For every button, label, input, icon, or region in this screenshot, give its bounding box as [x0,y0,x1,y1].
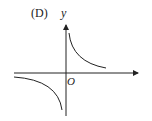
curve-branch-quadrant-3 [14,77,62,110]
graph-diagram: (D) y O [0,0,152,121]
curve-branch-quadrant-1 [69,33,106,68]
y-axis-label: y [60,6,67,20]
option-label: (D) [31,6,48,20]
origin-label: O [67,75,75,87]
